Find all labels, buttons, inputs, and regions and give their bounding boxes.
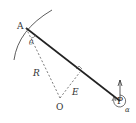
label-o: O <box>56 102 63 112</box>
label-p: P <box>117 96 123 106</box>
geometry-diagram: A θ R E O P α <box>0 0 136 123</box>
circle-arc <box>14 10 52 60</box>
label-e: E <box>71 87 79 97</box>
label-r: R <box>32 68 40 78</box>
label-a: A <box>16 21 24 31</box>
label-alpha: α <box>125 106 130 114</box>
